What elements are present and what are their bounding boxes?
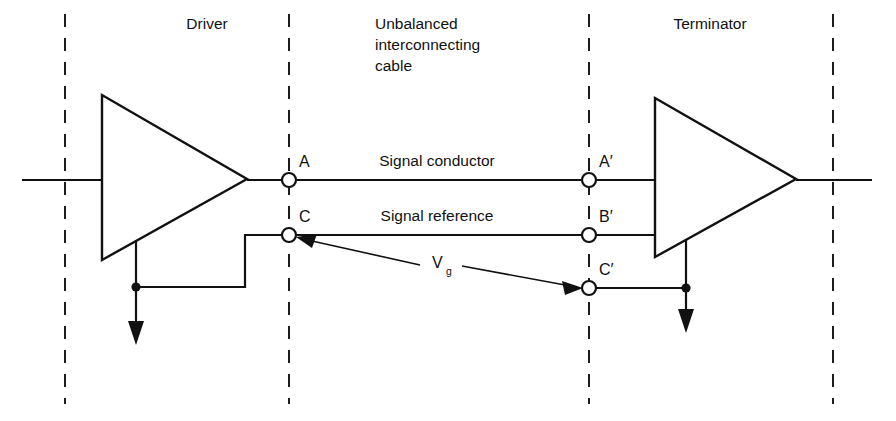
- terminator-amplifier-triangle: [655, 98, 796, 257]
- section-label-cable-line2: interconnecting: [375, 36, 480, 53]
- vg-leader-left-line: [303, 239, 420, 265]
- ground-voltage-subscript: g: [446, 265, 452, 277]
- diagram-canvas: Driver Unbalanced interconnecting cable …: [0, 0, 896, 421]
- vg-right-arrowhead-icon: [562, 281, 583, 295]
- node-label-a-prime: A′: [599, 153, 613, 170]
- section-label-cable-line1: Unbalanced: [375, 15, 458, 32]
- vg-leader-right-line: [462, 266, 576, 287]
- conductor-label-signal-conductor: Signal conductor: [379, 152, 494, 169]
- node-label-c: C: [299, 208, 311, 225]
- ground-voltage-label: V: [432, 254, 443, 271]
- terminal-circle-b-prime[interactable]: [582, 228, 596, 242]
- vg-left-arrowhead-icon: [296, 234, 317, 248]
- section-label-driver: Driver: [186, 15, 227, 32]
- terminal-circle-c[interactable]: [282, 228, 296, 242]
- terminal-circle-a[interactable]: [282, 173, 296, 187]
- conductor-label-signal-reference: Signal reference: [381, 207, 494, 224]
- terminal-circle-a-prime[interactable]: [582, 173, 596, 187]
- driver-ground-arrow-icon: [128, 321, 144, 345]
- driver-amplifier-triangle: [102, 95, 247, 260]
- terminator-ground-arrow-icon: [678, 309, 694, 333]
- unbalanced-interconnect-diagram: Driver Unbalanced interconnecting cable …: [0, 0, 896, 421]
- section-label-terminator: Terminator: [673, 15, 746, 32]
- terminal-circle-c-prime[interactable]: [582, 281, 596, 295]
- section-label-cable-line3: cable: [375, 57, 412, 74]
- node-label-c-prime: C′: [599, 261, 614, 278]
- node-label-b-prime: B′: [599, 208, 613, 225]
- node-label-a: A: [299, 153, 310, 170]
